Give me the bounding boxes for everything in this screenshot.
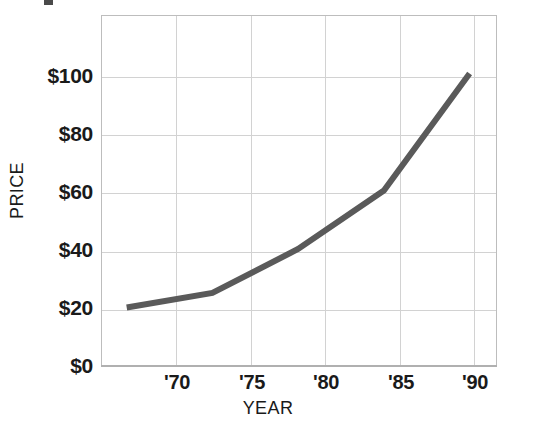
- gridline-y-40: [102, 252, 496, 253]
- y-tick-label-100: $100: [1, 64, 93, 88]
- x-tick-label-1970: '70: [164, 371, 190, 394]
- gridline-y-80: [102, 135, 496, 136]
- gridline-x-1990: [474, 16, 475, 365]
- x-tick-label-1975: '75: [239, 371, 265, 394]
- gridline-y-60: [102, 193, 496, 194]
- x-tick-label-1990: '90: [462, 371, 488, 394]
- gridline-x-1980: [325, 16, 326, 365]
- x-axis-title: YEAR: [0, 398, 536, 419]
- gridline-y-100: [102, 77, 496, 78]
- x-tick-label-1985: '85: [388, 371, 414, 394]
- gridline-x-1985: [400, 16, 401, 365]
- gridline-x-1970: [176, 16, 177, 365]
- gridline-y-20: [102, 310, 496, 311]
- y-tick-label-20: $20: [1, 296, 93, 320]
- plot-area: [101, 15, 497, 366]
- y-tick-label-0: $0: [1, 354, 93, 378]
- price-vs-year-line-chart: $100 $80 $60 $40 $20 $0 '70 '75 '80 '85 …: [0, 0, 536, 442]
- x-tick-label-1980: '80: [313, 371, 339, 394]
- gridline-x-1975: [251, 16, 252, 365]
- x-axis-line: [101, 365, 497, 367]
- y-axis-title: PRICE: [7, 136, 28, 246]
